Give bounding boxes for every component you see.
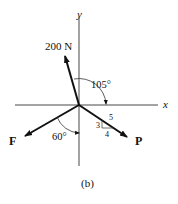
angle-105-label: 105° xyxy=(91,79,111,90)
force-diagram: y x 200 N 105° F 60° P 3 4 5 (b) xyxy=(0,0,178,204)
y-axis-label: y xyxy=(76,8,82,20)
angle-60-label: 60° xyxy=(52,131,67,142)
diagram-canvas: y x 200 N 105° F 60° P 3 4 5 (b) xyxy=(0,0,178,204)
force-200n-label: 200 N xyxy=(45,40,72,52)
slope-rise-label: 3 xyxy=(96,121,100,130)
force-p-label: P xyxy=(135,134,142,148)
force-p-arrow xyxy=(79,105,127,137)
force-f-label: F xyxy=(9,134,16,148)
figure-caption: (b) xyxy=(81,177,94,190)
slope-run-label: 4 xyxy=(105,130,109,139)
force-200n-arrow xyxy=(65,56,79,105)
slope-hyp-label: 5 xyxy=(109,113,113,122)
x-axis-label: x xyxy=(162,98,168,110)
